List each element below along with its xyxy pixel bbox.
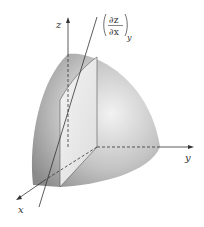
x-axis [19,180,45,198]
y-axis-arrow-icon [188,145,194,149]
x-axis-label: x [18,204,24,215]
tangent-label-subscript: y [126,33,132,42]
tangent-label-denominator: ∂x [109,27,119,37]
y-axis-label: y [184,152,191,163]
z-axis-arrow-icon [66,17,70,23]
tangent-label-numerator: ∂z [109,15,119,25]
diagram-canvas: z y x ∂z ∂x y [0,0,204,227]
x-axis-arrow-icon [16,195,22,200]
z-axis-label: z [55,19,62,30]
tangent-label: ∂z ∂x y [104,14,132,42]
